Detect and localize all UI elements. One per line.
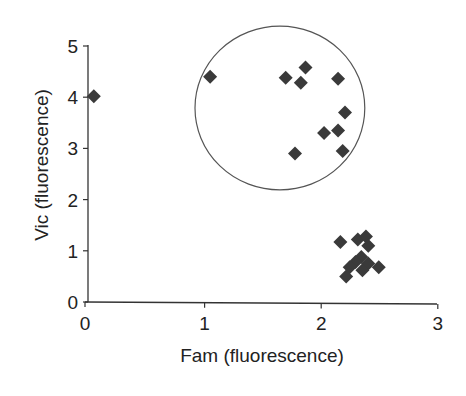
- x-axis-label: Fam (fluorescence): [180, 345, 344, 366]
- y-tick-label: 2: [67, 190, 78, 211]
- diamond-marker: [87, 89, 101, 103]
- diamond-marker: [279, 71, 293, 85]
- x-tick-label: 3: [433, 313, 444, 334]
- y-tick-label: 0: [67, 292, 78, 313]
- x-ticks: 0123: [80, 302, 443, 334]
- diamond-marker: [298, 61, 312, 75]
- diamond-marker: [331, 72, 345, 86]
- y-axis-label: Vic (fluorescence): [31, 89, 52, 241]
- diamond-marker: [338, 106, 352, 120]
- y-tick-label: 1: [67, 241, 78, 262]
- diamond-marker: [331, 123, 345, 137]
- y-ticks: 012345: [67, 36, 88, 313]
- y-tick-label: 3: [67, 138, 78, 159]
- diamond-marker: [333, 235, 347, 249]
- axes: 012345 0123: [67, 36, 443, 334]
- diamond-marker: [317, 126, 331, 140]
- y-tick-label: 5: [67, 36, 78, 57]
- x-tick-label: 0: [80, 313, 91, 334]
- diamond-marker: [288, 147, 302, 161]
- diamond-marker: [294, 76, 308, 90]
- diamond-marker: [336, 144, 350, 158]
- diamond-marker: [203, 70, 217, 84]
- data-points: [87, 61, 386, 284]
- y-tick-label: 4: [67, 87, 78, 108]
- chart-canvas: 012345 0123 Fam (fluorescence) Vic (fluo…: [0, 0, 466, 396]
- annotation-layer: [195, 26, 365, 190]
- cluster-circle-annotation: [195, 26, 365, 190]
- x-tick-label: 2: [316, 313, 327, 334]
- scatter-chart: 012345 0123 Fam (fluorescence) Vic (fluo…: [0, 0, 466, 396]
- x-tick-label: 1: [199, 313, 210, 334]
- x-axis-line: [85, 302, 437, 304]
